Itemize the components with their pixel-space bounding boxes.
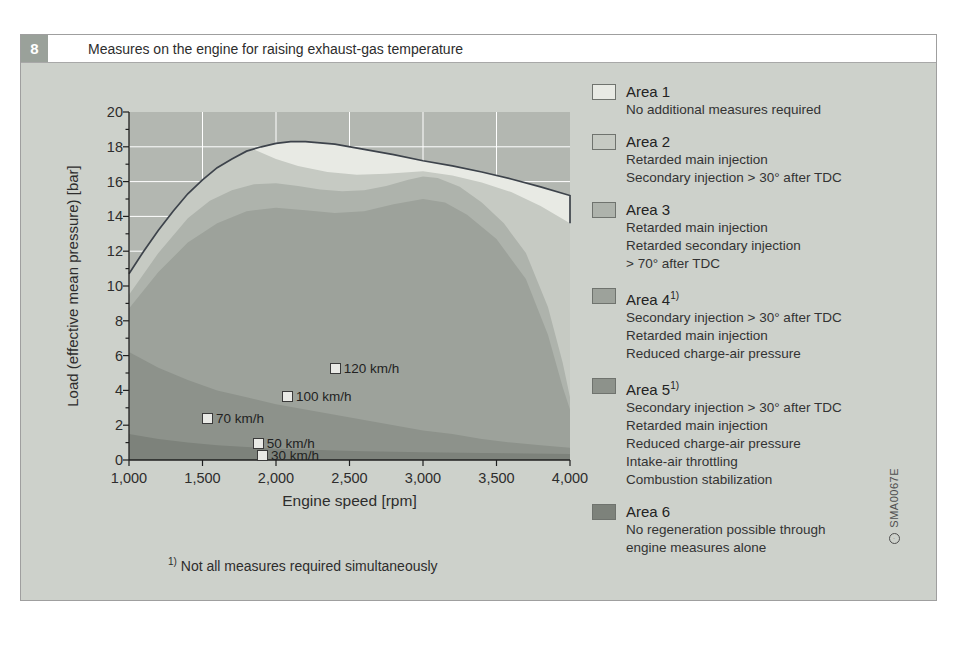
legend-swatch xyxy=(592,504,616,520)
x-tick-label: 1,500 xyxy=(184,470,220,486)
watermark: SMA0067E · xyxy=(886,468,902,544)
footnote-marker: 1) xyxy=(168,556,177,567)
x-tick-label: 3,500 xyxy=(478,470,514,486)
legend-area-title: Area 51) xyxy=(626,376,842,399)
speed-marker: 70 km/h xyxy=(202,411,264,426)
y-tick-label: 0 xyxy=(63,451,123,469)
legend-description-line: No regeneration possible through xyxy=(626,521,826,539)
legend-area-title: Area 2 xyxy=(626,132,842,151)
legend-description-line: Reduced charge-air pressure xyxy=(626,345,842,363)
legend-text: Area 1No additional measures required xyxy=(626,82,821,119)
legend-item-area-1: Area 1No additional measures required xyxy=(592,82,892,119)
legend-description-line: Secondary injection > 30° after TDC xyxy=(626,309,842,327)
legend-description-line: Retarded main injection xyxy=(626,327,842,345)
legend-description-line: Intake-air throttling xyxy=(626,453,842,471)
figure-header: 8 Measures on the engine for raising exh… xyxy=(21,35,936,63)
legend-description-line: Retarded main injection xyxy=(626,151,842,169)
speed-marker-label: 30 km/h xyxy=(271,448,319,463)
legend-text: Area 2Retarded main injectionSecondary i… xyxy=(626,132,842,187)
legend-item-area-5: Area 51)Secondary injection > 30° after … xyxy=(592,376,892,489)
legend-item-area-4: Area 41)Secondary injection > 30° after … xyxy=(592,286,892,363)
legend-swatch xyxy=(592,134,616,150)
speed-marker-square-icon xyxy=(257,450,268,461)
legend-description-line: Combustion stabilization xyxy=(626,471,842,489)
legend-item-area-2: Area 2Retarded main injectionSecondary i… xyxy=(592,132,892,187)
legend-description-line: Reduced charge-air pressure xyxy=(626,435,842,453)
legend-description-line: engine measures alone xyxy=(626,539,826,557)
y-axis-label: Load (effective mean pressure) [bar] xyxy=(64,165,81,407)
legend-area-title: Area 3 xyxy=(626,200,801,219)
x-tick-label: 2,500 xyxy=(331,470,367,486)
legend-swatch xyxy=(592,202,616,218)
x-tick-label: 2,000 xyxy=(258,470,294,486)
x-tick-label: 4,000 xyxy=(552,470,588,486)
legend-swatch xyxy=(592,288,616,304)
watermark-code: SMA0067E xyxy=(888,468,900,528)
legend-description-line: No additional measures required xyxy=(626,101,821,119)
footnote-text: Not all measures required simultaneously xyxy=(181,558,438,574)
legend-area-title: Area 41) xyxy=(626,286,842,309)
legend-description-line: Retarded main injection xyxy=(626,417,842,435)
speed-marker-label: 70 km/h xyxy=(216,411,264,426)
figure-title: Measures on the engine for raising exhau… xyxy=(48,35,463,62)
speed-marker: 100 km/h xyxy=(282,389,352,404)
legend: Area 1No additional measures requiredAre… xyxy=(592,82,892,570)
legend-description-line: Retarded secondary injection xyxy=(626,237,801,255)
speed-marker: 30 km/h xyxy=(257,448,319,463)
legend-text: Area 3Retarded main injectionRetarded se… xyxy=(626,200,801,273)
publisher-logo-icon: · xyxy=(889,533,900,544)
speed-marker-label: 120 km/h xyxy=(344,361,400,376)
legend-footnote-marker: 1) xyxy=(670,380,679,391)
x-tick-label: 3,000 xyxy=(405,470,441,486)
legend-swatch xyxy=(592,378,616,394)
legend-description-line: Retarded main injection xyxy=(626,219,801,237)
speed-marker-label: 100 km/h xyxy=(296,389,352,404)
legend-description-line: Secondary injection > 30° after TDC xyxy=(626,169,842,187)
y-tick-label: 18 xyxy=(63,138,123,156)
speed-marker-square-icon xyxy=(202,413,213,424)
speed-marker-square-icon xyxy=(330,363,341,374)
legend-item-area-6: Area 6No regeneration possible throughen… xyxy=(592,502,892,557)
legend-footnote-marker: 1) xyxy=(670,290,679,301)
legend-text: Area 41)Secondary injection > 30° after … xyxy=(626,286,842,363)
legend-description-line: > 70° after TDC xyxy=(626,255,801,273)
speed-marker: 120 km/h xyxy=(330,361,400,376)
engine-map-plot xyxy=(119,108,580,470)
legend-description-line: Secondary injection > 30° after TDC xyxy=(626,399,842,417)
legend-text: Area 51)Secondary injection > 30° after … xyxy=(626,376,842,489)
legend-text: Area 6No regeneration possible throughen… xyxy=(626,502,826,557)
x-tick-label: 1,000 xyxy=(111,470,147,486)
legend-swatch xyxy=(592,84,616,100)
footnote: 1) Not all measures required simultaneou… xyxy=(168,556,438,574)
legend-area-title: Area 6 xyxy=(626,502,826,521)
figure-screenshot: 8 Measures on the engine for raising exh… xyxy=(0,0,956,648)
y-tick-label: 20 xyxy=(63,103,123,121)
figure-number-badge: 8 xyxy=(21,35,48,62)
legend-item-area-3: Area 3Retarded main injectionRetarded se… xyxy=(592,200,892,273)
speed-marker-square-icon xyxy=(282,391,293,402)
x-axis-label: Engine speed [rpm] xyxy=(129,492,570,510)
legend-area-title: Area 1 xyxy=(626,82,821,101)
y-tick-label: 2 xyxy=(63,416,123,434)
